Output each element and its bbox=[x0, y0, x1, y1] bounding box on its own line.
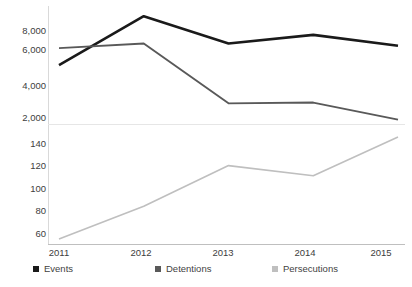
x-tick-label-2013: 2013 bbox=[194, 247, 252, 258]
y-tick-label-bottom-1: 120 bbox=[0, 161, 46, 171]
y-tick-label-top-1: 6,000 bbox=[0, 45, 46, 55]
legend-label-persecutions: Persecutions bbox=[283, 263, 338, 275]
y-tick-label-bottom-0: 140 bbox=[0, 139, 46, 149]
legend-swatch-persecutions-icon bbox=[272, 266, 278, 272]
y-tick-label-bottom-3: 80 bbox=[0, 206, 46, 216]
legend-item-events[interactable]: Events bbox=[33, 263, 73, 275]
panel-divider bbox=[48, 124, 405, 125]
series-line-events bbox=[59, 16, 398, 65]
chart-panel-bottom bbox=[0, 125, 412, 245]
series-line-detentions bbox=[59, 43, 398, 119]
y-tick-label-top-0: 8,000 bbox=[0, 26, 46, 36]
x-axis-line bbox=[48, 244, 405, 245]
y-tick-label-bottom-2: 100 bbox=[0, 184, 46, 194]
legend-swatch-detentions-icon bbox=[155, 266, 161, 272]
y-tick-label-top-2: 4,000 bbox=[0, 81, 46, 91]
line-chart: 8,000 6,000 4,000 2,000 140 120 100 80 6… bbox=[0, 0, 412, 287]
legend-label-detentions: Detentions bbox=[166, 263, 211, 275]
y-tick-label-top-3: 2,000 bbox=[0, 113, 46, 123]
plot-area-bottom bbox=[0, 125, 412, 245]
x-tick-label-2014: 2014 bbox=[276, 247, 334, 258]
y-axis-top bbox=[48, 6, 49, 125]
legend-label-events: Events bbox=[44, 263, 73, 275]
y-tick-label-bottom-4: 60 bbox=[0, 229, 46, 239]
legend-item-detentions[interactable]: Detentions bbox=[155, 263, 211, 275]
legend-item-persecutions[interactable]: Persecutions bbox=[272, 263, 338, 275]
x-tick-label-2012: 2012 bbox=[112, 247, 170, 258]
series-line-persecutions bbox=[59, 137, 398, 239]
plot-area-top bbox=[0, 0, 412, 125]
legend-swatch-events-icon bbox=[33, 266, 39, 272]
chart-panel-top bbox=[0, 0, 412, 125]
chart-legend: Events Detentions Persecutions bbox=[0, 263, 412, 283]
y-axis-bottom bbox=[48, 125, 49, 244]
x-tick-label-2015: 2015 bbox=[352, 247, 410, 258]
x-tick-label-2011: 2011 bbox=[30, 247, 88, 258]
